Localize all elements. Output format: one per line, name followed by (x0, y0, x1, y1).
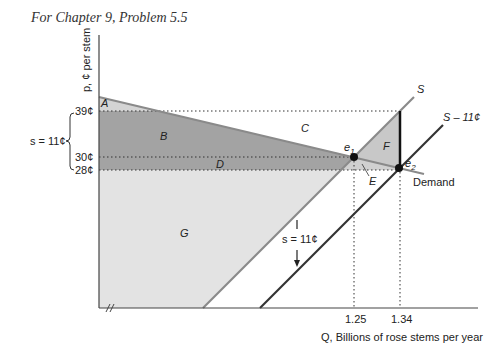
y-axis-label: p, ¢ per stem (80, 28, 92, 92)
region-label-g: G (180, 227, 189, 239)
tick-134: 1.34 (391, 313, 412, 325)
label-shift: s = 11¢ (282, 233, 318, 245)
tick-39: 39¢ (75, 105, 93, 117)
region-label-c: C (301, 122, 309, 134)
supply-demand-diagram: p, ¢ per stem 39¢ 30¢ 28¢ s = 11¢ 1.25 1… (0, 0, 503, 351)
region-d (99, 157, 354, 170)
label-s: S (417, 83, 425, 95)
region-b (99, 111, 354, 157)
tick-30: 30¢ (75, 151, 93, 163)
region-label-d: D (216, 158, 224, 170)
region-label-b: B (160, 130, 167, 142)
tick-125: 1.25 (345, 313, 366, 325)
label-e1: e1 (344, 141, 355, 156)
point-e2 (395, 164, 403, 172)
region-label-e: E (369, 175, 377, 187)
arrow-down-icon (294, 260, 300, 267)
region-label-a: A (100, 97, 108, 109)
brace-label: s = 11¢ (30, 135, 66, 147)
tick-28: 28¢ (75, 164, 93, 176)
label-s-minus: S – 11¢ (443, 111, 480, 123)
x-axis-label: Q, Billions of rose stems per year (321, 331, 483, 343)
brace-icon (66, 113, 74, 170)
label-demand: Demand (413, 176, 455, 188)
